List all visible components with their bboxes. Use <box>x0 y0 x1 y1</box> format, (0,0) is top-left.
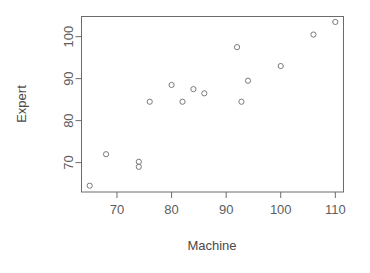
data-point-marker <box>136 164 141 169</box>
x-tick-label: 70 <box>110 202 124 217</box>
data-point-marker <box>136 159 141 164</box>
y-tick-label: 90 <box>61 71 76 85</box>
data-point-marker <box>333 19 338 24</box>
data-point-marker <box>147 99 152 104</box>
data-point-marker <box>239 99 244 104</box>
y-axis-tick-labels: 708090100 <box>61 26 76 170</box>
data-point-marker <box>245 78 250 83</box>
x-tick-label: 90 <box>219 202 233 217</box>
scatter-data-points <box>87 19 338 188</box>
plot-frame-box <box>82 17 344 193</box>
x-axis-tick-labels: 708090100110 <box>110 202 346 217</box>
scatter-plot-figure: 708090100110 708090100 Machine Expert <box>0 0 370 273</box>
data-point-marker <box>311 32 316 37</box>
data-point-marker <box>278 63 283 68</box>
y-tick-label: 70 <box>61 155 76 169</box>
y-tick-label: 80 <box>61 113 76 127</box>
data-point-marker <box>234 45 239 50</box>
x-axis-title: Machine <box>187 238 236 253</box>
y-tick-label: 100 <box>61 26 76 48</box>
data-point-marker <box>191 87 196 92</box>
y-axis-ticks <box>76 37 82 163</box>
x-axis-ticks <box>117 192 335 198</box>
x-tick-label: 110 <box>325 202 346 217</box>
data-point-marker <box>169 82 174 87</box>
x-tick-label: 80 <box>164 202 178 217</box>
data-point-marker <box>87 183 92 188</box>
data-point-marker <box>202 91 207 96</box>
y-axis-title: Expert <box>14 85 29 123</box>
plot-canvas: 708090100110 708090100 Machine Expert <box>0 0 370 273</box>
data-point-marker <box>103 152 108 157</box>
x-tick-label: 100 <box>270 202 292 217</box>
data-point-marker <box>180 99 185 104</box>
